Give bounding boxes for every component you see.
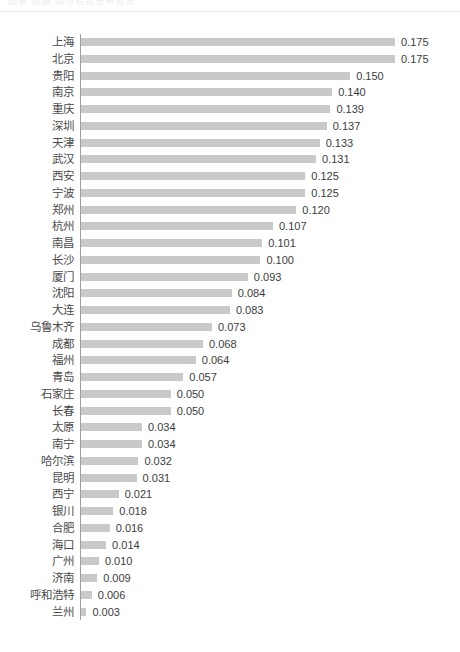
bar xyxy=(81,557,99,565)
category-label: 银川 xyxy=(0,503,74,520)
bar-row: 西宁0.021 xyxy=(0,486,460,503)
bar xyxy=(81,507,113,515)
bar xyxy=(81,155,316,163)
bar-row: 厦门0.093 xyxy=(0,269,460,286)
category-label: 成都 xyxy=(0,336,74,353)
bar-value-label: 0.031 xyxy=(143,470,171,487)
bar xyxy=(81,72,350,80)
bar-value-label: 0.084 xyxy=(238,285,266,302)
category-label: 呼和浩特 xyxy=(0,587,74,604)
bar-value-label: 0.093 xyxy=(254,269,282,286)
category-label: 福州 xyxy=(0,352,74,369)
bar-value-label: 0.133 xyxy=(326,135,354,152)
bar-row: 郑州0.120 xyxy=(0,202,460,219)
bar xyxy=(81,222,273,230)
bar-row: 长春0.050 xyxy=(0,403,460,420)
category-label: 上海 xyxy=(0,34,74,51)
bar xyxy=(81,306,230,314)
category-label: 乌鲁木齐 xyxy=(0,319,74,336)
bar-row: 石家庄0.050 xyxy=(0,386,460,403)
bar-value-label: 0.014 xyxy=(112,537,140,554)
category-label: 厦门 xyxy=(0,269,74,286)
bar xyxy=(81,407,171,415)
category-label: 哈尔滨 xyxy=(0,453,74,470)
bar-row: 杭州0.107 xyxy=(0,218,460,235)
bar-value-label: 0.021 xyxy=(125,486,153,503)
category-label: 北京 xyxy=(0,51,74,68)
bar-value-label: 0.175 xyxy=(401,34,429,51)
category-label: 长春 xyxy=(0,403,74,420)
bar xyxy=(81,189,305,197)
bar-value-label: 0.050 xyxy=(177,386,205,403)
bar-value-label: 0.018 xyxy=(119,503,147,520)
bar xyxy=(81,423,142,431)
category-label: 青岛 xyxy=(0,369,74,386)
category-label: 广州 xyxy=(0,553,74,570)
bar-value-label: 0.131 xyxy=(322,151,350,168)
bar-value-label: 0.101 xyxy=(268,235,296,252)
bar-value-label: 0.100 xyxy=(266,252,294,269)
category-label: 贵阳 xyxy=(0,68,74,85)
category-label: 石家庄 xyxy=(0,386,74,403)
bar xyxy=(81,206,296,214)
category-label: 杭州 xyxy=(0,218,74,235)
bar-value-label: 0.050 xyxy=(177,403,205,420)
bar-value-label: 0.003 xyxy=(92,604,120,621)
bar-value-label: 0.150 xyxy=(356,68,384,85)
bar xyxy=(81,105,330,113)
bar xyxy=(81,457,138,465)
bar xyxy=(81,340,203,348)
category-label: 南宁 xyxy=(0,436,74,453)
bar xyxy=(81,490,119,498)
bar-row: 兰州0.003 xyxy=(0,604,460,621)
bar-value-label: 0.064 xyxy=(202,352,230,369)
category-label: 海口 xyxy=(0,537,74,554)
category-label: 长沙 xyxy=(0,252,74,269)
category-label: 武汉 xyxy=(0,151,74,168)
bar-row: 海口0.014 xyxy=(0,537,460,554)
horizontal-bar-chart: 上海0.175北京0.175贵阳0.150南京0.140重庆0.139深圳0.1… xyxy=(0,12,460,652)
category-label: 西宁 xyxy=(0,486,74,503)
bar xyxy=(81,88,332,96)
bar-row: 南京0.140 xyxy=(0,84,460,101)
bar-row: 乌鲁木齐0.073 xyxy=(0,319,460,336)
bar-row: 青岛0.057 xyxy=(0,369,460,386)
bar-value-label: 0.125 xyxy=(311,168,339,185)
bar-row: 南昌0.101 xyxy=(0,235,460,252)
bar-value-label: 0.125 xyxy=(311,185,339,202)
bar-row: 成都0.068 xyxy=(0,336,460,353)
bar xyxy=(81,122,327,130)
bar xyxy=(81,390,171,398)
bar-value-label: 0.034 xyxy=(148,436,176,453)
bar-row: 大连0.083 xyxy=(0,302,460,319)
bar-value-label: 0.034 xyxy=(148,419,176,436)
bar-row: 深圳0.137 xyxy=(0,118,460,135)
bar xyxy=(81,356,196,364)
bar-value-label: 0.009 xyxy=(103,570,131,587)
bar xyxy=(81,289,232,297)
bar xyxy=(81,373,183,381)
bar xyxy=(81,256,260,264)
bar-row: 昆明0.031 xyxy=(0,470,460,487)
category-label: 太原 xyxy=(0,419,74,436)
category-label: 沈阳 xyxy=(0,285,74,302)
bar-value-label: 0.175 xyxy=(401,51,429,68)
bar-value-label: 0.107 xyxy=(279,218,307,235)
bar xyxy=(81,541,106,549)
bar-row: 天津0.133 xyxy=(0,135,460,152)
bar-value-label: 0.006 xyxy=(98,587,126,604)
category-label: 昆明 xyxy=(0,470,74,487)
top-header-strip: 图表 数据 城市指数分布情况 xyxy=(0,0,460,11)
bar-row: 济南0.009 xyxy=(0,570,460,587)
bar xyxy=(81,239,262,247)
bar-row: 广州0.010 xyxy=(0,553,460,570)
bar-row: 北京0.175 xyxy=(0,51,460,68)
bar-row: 宁波0.125 xyxy=(0,185,460,202)
header-ghost-text: 图表 数据 城市指数分布情况 xyxy=(8,0,135,7)
bar xyxy=(81,38,395,46)
category-label: 大连 xyxy=(0,302,74,319)
category-label: 济南 xyxy=(0,570,74,587)
bar-value-label: 0.016 xyxy=(116,520,144,537)
category-label: 西安 xyxy=(0,168,74,185)
category-label: 深圳 xyxy=(0,118,74,135)
